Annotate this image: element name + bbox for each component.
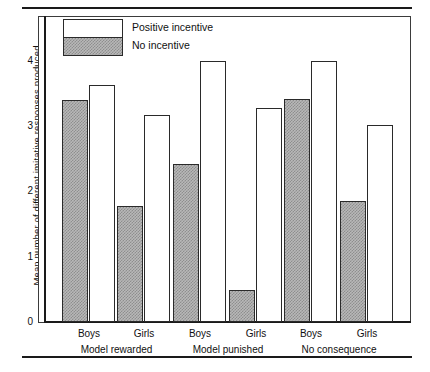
x-axis-sublabel-boys: Boys	[59, 328, 119, 339]
bar-no-incentive	[340, 201, 366, 322]
y-axis-tick-label: 0	[0, 317, 33, 327]
legend-label-positive-incentive: Positive incentive	[132, 21, 213, 33]
x-axis-sublabel-girls: Girls	[114, 328, 174, 339]
legend-swatch-positive-incentive	[64, 20, 122, 38]
y-axis-tick-label: 4	[0, 56, 33, 66]
x-axis-group-label: No consequence	[279, 344, 399, 355]
x-axis-sublabel-girls: Girls	[226, 328, 286, 339]
x-axis-sublabel-girls: Girls	[337, 328, 397, 339]
x-axis-sublabel-boys: Boys	[281, 328, 341, 339]
bar-positive-incentive	[144, 115, 170, 322]
bar-positive-incentive	[367, 125, 393, 322]
x-axis-group-label: Model punished	[168, 344, 288, 355]
y-axis-tick-label: 2	[0, 186, 33, 196]
x-axis-sublabel-boys: Boys	[170, 328, 230, 339]
bars-container	[45, 16, 411, 322]
bar-no-incentive	[229, 290, 255, 322]
x-axis-group-label: Model rewarded	[57, 344, 177, 355]
legend-box	[63, 19, 123, 56]
bottom-horizontal-rule	[22, 356, 412, 358]
bar-no-incentive	[117, 206, 143, 322]
y-axis-tick-label: 3	[0, 121, 33, 131]
bar-positive-incentive	[311, 61, 337, 322]
bar-no-incentive	[284, 99, 310, 322]
bar-positive-incentive	[256, 108, 282, 322]
y-axis-tick-label: 1	[0, 252, 33, 262]
legend-swatch-no-incentive	[64, 38, 122, 56]
top-horizontal-rule	[22, 7, 412, 9]
legend-label-no-incentive: No incentive	[132, 39, 190, 51]
bar-positive-incentive	[89, 85, 115, 322]
bar-positive-incentive	[200, 61, 226, 322]
bar-no-incentive	[62, 100, 88, 322]
bar-no-incentive	[173, 164, 199, 322]
